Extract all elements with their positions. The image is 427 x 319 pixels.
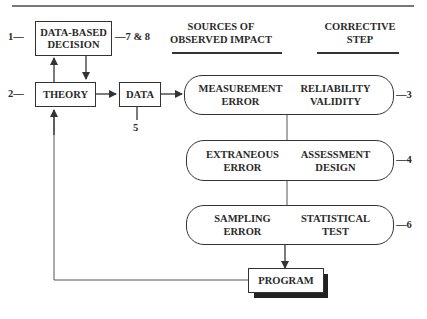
decision-line1: DATA-BASED	[40, 27, 107, 39]
pill-source: MEASUREMENT ERROR	[193, 82, 288, 108]
pill-measurement-error: MEASUREMENT ERROR RELIABILITY VALIDITY	[184, 75, 394, 115]
header-corrective-step: CORRECTIVE STEP	[314, 20, 406, 46]
source-line2: ERROR	[193, 95, 288, 108]
header-corrective-line1: CORRECTIVE	[314, 20, 406, 33]
label-6: —6	[396, 219, 412, 231]
data-box: DATA	[119, 82, 161, 107]
pill-corrective: ASSESSMENT DESIGN	[288, 148, 383, 174]
theory-label: THEORY	[43, 89, 88, 101]
pill-source: SAMPLING ERROR	[195, 212, 290, 238]
decision-line2: DECISION	[48, 39, 100, 51]
pill-source: EXTRANEOUS ERROR	[195, 148, 290, 174]
corrective-line2: TEST	[288, 225, 383, 238]
pill-sampling-error: SAMPLING ERROR STATISTICAL TEST	[186, 205, 394, 245]
header-sources-underline	[172, 52, 282, 54]
corrective-line1: STATISTICAL	[288, 212, 383, 225]
source-line1: EXTRANEOUS	[195, 148, 290, 161]
label-3: —3	[396, 89, 412, 101]
header-sources-line1: SOURCES OF	[168, 20, 274, 33]
program-label: PROGRAM	[258, 275, 313, 287]
header-corrective-underline	[317, 52, 399, 54]
corrective-line1: ASSESSMENT	[288, 148, 383, 161]
data-based-decision-box: DATA-BASED DECISION	[35, 21, 112, 56]
label-7-and-8: —7 & 8	[115, 31, 150, 43]
pill-corrective: RELIABILITY VALIDITY	[288, 82, 383, 108]
label-5: 5	[133, 122, 138, 134]
data-label: DATA	[126, 89, 154, 101]
source-line1: SAMPLING	[195, 212, 290, 225]
header-sources-line2: OBSERVED IMPACT	[168, 33, 274, 46]
pill-corrective: STATISTICAL TEST	[288, 212, 383, 238]
label-1: 1—	[8, 31, 24, 43]
source-line2: ERROR	[195, 225, 290, 238]
program-box: PROGRAM	[248, 268, 324, 293]
source-line1: MEASUREMENT	[193, 82, 288, 95]
label-4: —4	[396, 154, 412, 166]
theory-box: THEORY	[35, 82, 96, 107]
pill-extraneous-error: EXTRANEOUS ERROR ASSESSMENT DESIGN	[186, 140, 394, 181]
source-line2: ERROR	[195, 161, 290, 174]
corrective-line1: RELIABILITY	[288, 82, 383, 95]
label-2: 2—	[8, 88, 24, 100]
header-corrective-line2: STEP	[314, 33, 406, 46]
corrective-line2: VALIDITY	[288, 95, 383, 108]
corrective-line2: DESIGN	[288, 161, 383, 174]
header-sources-of-observed-impact: SOURCES OF OBSERVED IMPACT	[168, 20, 274, 46]
